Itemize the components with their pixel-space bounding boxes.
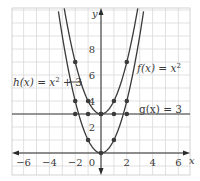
axes [12, 8, 190, 175]
data-point [112, 99, 117, 104]
x-tick-label: 0 [89, 157, 95, 168]
data-point [99, 151, 104, 156]
f-label: f(x) = x2 [136, 62, 181, 74]
data-point [112, 112, 117, 117]
graph-plot: −6−4−202462468 y x f(x) = x2 h(x) = x2 +… [0, 0, 200, 181]
data-point [125, 112, 130, 117]
x-tick-label: 2 [124, 157, 130, 168]
data-point [73, 112, 78, 117]
x-tick-label: −4 [42, 157, 57, 168]
y-tick-label: 2 [89, 122, 95, 133]
y-axis-label: y [91, 8, 98, 19]
x-tick-label: 6 [175, 157, 181, 168]
data-point [125, 60, 130, 65]
y-tick-label: 6 [89, 70, 95, 81]
x-tick-label: 4 [149, 157, 155, 168]
data-point [73, 60, 78, 65]
x-arrow-left-icon [12, 151, 19, 156]
data-point [112, 138, 117, 143]
x-tick-label: −2 [68, 157, 83, 168]
data-point [99, 112, 104, 117]
x-tick-label: −6 [16, 157, 31, 168]
y-arrow-up-icon [99, 8, 104, 15]
data-point [86, 112, 91, 117]
data-point [73, 99, 78, 104]
f-label-sup: 2 [176, 62, 180, 70]
y-arrow-down-icon [99, 168, 104, 175]
g-label: g(x) = 3 [139, 103, 182, 115]
h-label-text: h(x) = x [13, 76, 55, 88]
data-point [86, 138, 91, 143]
f-label-text: f(x) = x [136, 62, 176, 74]
x-axis-label: x [189, 155, 195, 166]
y-tick-label: 4 [89, 96, 95, 107]
data-point [125, 99, 130, 104]
y-tick-label: 8 [89, 44, 95, 55]
